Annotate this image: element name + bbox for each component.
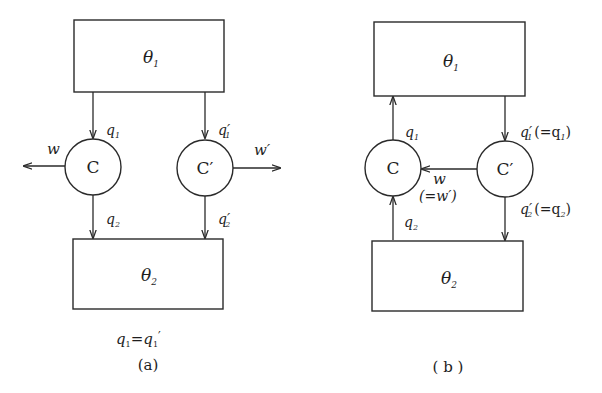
label-q1-b: q1: [405, 124, 419, 142]
label-wp-a: w′: [254, 141, 271, 159]
caption-b: ( b ): [433, 358, 464, 376]
engine-c-a-label: C: [86, 157, 99, 177]
engine-c-b-label: C: [386, 158, 399, 178]
label-w-a: w: [47, 140, 60, 158]
caption-a: (a): [138, 356, 159, 374]
label-q1p-b: q′1(=q1): [520, 124, 571, 142]
label-q2-a: q2: [106, 211, 120, 229]
engine-cprime-a-label: C′: [197, 158, 214, 178]
carnot-engine-diagram: θ1 θ2 C q1 q2 w C′ q′1 q′2 w′ q1=q1′ (a)…: [0, 0, 602, 393]
label-q1-a: q1: [106, 122, 120, 140]
panel-a: θ1 θ2 C q1 q2 w C′ q′1 q′2 w′ q1=q1′ (a): [24, 20, 280, 374]
relation-q1-eq-q1p: q1=q1′: [116, 330, 161, 349]
label-w-note-b: (=w′): [419, 188, 457, 204]
label-q2-b: q2: [404, 214, 418, 232]
label-q2p-a: q′2: [218, 211, 231, 229]
label-q2p-b: q′2(=q2): [520, 201, 571, 219]
panel-b: θ1 θ2 C q1 q2 w (=w′) C′ q′1(=q1) q′2(=q…: [365, 22, 571, 376]
engine-cprime-b-label: C′: [497, 159, 514, 179]
label-q1p-a: q′1: [218, 122, 231, 140]
label-w-b: w: [433, 170, 446, 188]
